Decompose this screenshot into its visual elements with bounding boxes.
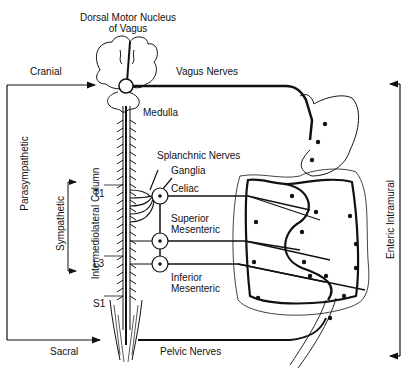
celiac-label: Celiac <box>171 183 199 194</box>
vagus-nerves-label: Vagus Nerves <box>176 66 238 77</box>
intermediolateral-column-label: Intermediolateral Column <box>90 159 101 289</box>
sacral-label: Sacral <box>50 346 78 357</box>
sympathetic-bracket <box>68 182 76 271</box>
parasympathetic-label: Parasympathetic <box>19 129 30 219</box>
dorsal-motor-nucleus-circle <box>119 79 133 93</box>
splanchnic-nerves-label: Splanchnic Nerves <box>157 150 240 161</box>
medulla-label: Medulla <box>143 107 178 118</box>
ganglia-label: Ganglia <box>171 165 205 176</box>
inferior-mesenteric-label: Inferior Mesenteric <box>171 272 220 294</box>
spinal-cord-illustration <box>110 106 142 362</box>
enteric-intramural-label: Enteric Intramural <box>385 170 396 270</box>
enteric-ganglia-dots <box>252 122 358 320</box>
pelvic-nerve-line <box>138 318 326 340</box>
cranial-label: Cranial <box>30 66 62 77</box>
s1-label: S1 <box>93 298 105 309</box>
sympathetic-label: Sympathetic <box>55 189 66 259</box>
superior-mesenteric-label: Superior Mesenteric <box>171 213 220 235</box>
dorsal-motor-nucleus-label: Dorsal Motor Nucleus of Vagus <box>72 12 184 34</box>
pelvic-nerves-label: Pelvic Nerves <box>160 346 221 357</box>
